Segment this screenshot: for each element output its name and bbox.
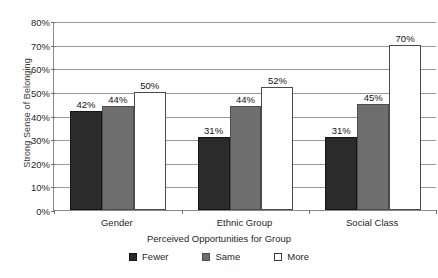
legend-item-fewer: Fewer [129,251,168,262]
y-axis-tick-label: 70% [16,40,50,51]
bar-social-class-fewer [325,137,357,210]
bar-ethnic-group-more [261,87,293,210]
chart-legend: FewerSameMore [0,251,438,262]
y-axis-tick-label: 80% [16,17,50,28]
y-axis-tickmark [51,117,55,118]
bar-value-label: 44% [108,94,127,105]
x-axis-tickmark [309,210,310,214]
bar-value-label: 50% [140,80,159,91]
bar-value-label: 42% [76,99,95,110]
x-axis-label-ethnic-group: Ethnic Group [217,217,272,228]
x-axis-label-gender: Gender [101,217,133,228]
gridline [54,69,436,70]
y-axis-tick-label: 40% [16,111,50,122]
plot-area: 42%44%50%31%44%52%31%45%70% [53,22,436,211]
bar-chart: Strong Sense of Belonging 0%10%20%30%40%… [0,0,438,278]
legend-label: Fewer [142,251,168,262]
y-axis-tick-label: 10% [16,182,50,193]
y-axis-tickmark [51,140,55,141]
y-axis-tick-label: 30% [16,135,50,146]
x-axis-title: Perceived Opportunities for Group [0,233,438,244]
y-axis-tickmark [51,46,55,47]
bar-value-label: 44% [236,94,255,105]
gridline [54,22,436,23]
x-axis-tickmark [54,210,55,214]
bar-value-label: 45% [364,92,383,103]
y-axis-tick-label: 0% [16,206,50,217]
bar-social-class-more [389,45,421,210]
x-axis-tickmark [436,210,437,214]
bar-ethnic-group-fewer [198,137,230,210]
bar-gender-more [134,92,166,210]
gridline [54,46,436,47]
legend-label: More [287,251,309,262]
x-axis-label-social-class: Social Class [346,217,398,228]
legend-label: Same [215,251,240,262]
legend-swatch-icon [202,253,210,261]
y-axis-tickmark [51,22,55,23]
bar-gender-same [102,106,134,210]
legend-swatch-icon [129,253,137,261]
bar-value-label: 31% [204,125,223,136]
bar-value-label: 52% [268,75,287,86]
legend-item-same: Same [202,251,240,262]
legend-swatch-icon [274,253,282,261]
y-axis-tick-label: 60% [16,64,50,75]
y-axis-tickmark [51,93,55,94]
y-axis-tick-labels: 0%10%20%30%40%50%60%70%80% [16,22,50,211]
y-axis-tick-label: 20% [16,158,50,169]
y-axis-tickmark [51,164,55,165]
x-axis-tickmark [182,210,183,214]
y-axis-tickmark [51,187,55,188]
bar-value-label: 70% [396,33,415,44]
y-axis-tick-label: 50% [16,87,50,98]
bar-value-label: 31% [332,125,351,136]
bar-ethnic-group-same [230,106,262,210]
bar-social-class-same [357,104,389,210]
y-axis-tickmark [51,69,55,70]
bar-gender-fewer [70,111,102,210]
legend-item-more: More [274,251,309,262]
